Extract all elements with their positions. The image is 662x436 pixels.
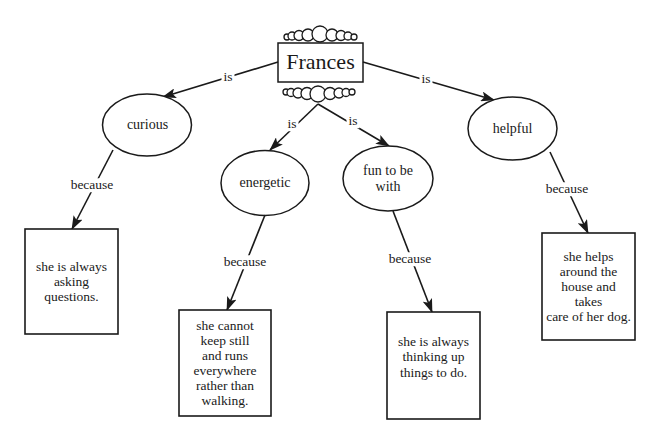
- edge-label-because-energetic: because: [222, 255, 269, 269]
- edge-label-is-helpful: is: [419, 72, 432, 86]
- reason-line: asking: [54, 274, 89, 289]
- edge-label-is-fun: is: [346, 114, 359, 128]
- reason-line: walking.: [202, 393, 249, 408]
- trait-label-fun: fun to be with: [343, 146, 433, 211]
- reason-line: house and takes: [546, 279, 631, 309]
- trait-label-helpful: helpful: [468, 97, 557, 160]
- reason-line: everywhere: [194, 363, 257, 378]
- pearl-decoration-bottom-icon: [283, 86, 355, 102]
- reason-line: she cannot: [196, 318, 253, 333]
- reason-line: she is always: [36, 259, 107, 274]
- edge-label-because-curious: because: [69, 178, 116, 192]
- reason-line: questions.: [44, 289, 98, 304]
- pearl-decoration-top-icon: [284, 26, 357, 42]
- reason-line: she helps: [564, 249, 614, 264]
- reason-text-fun: she is always thinking up things to do.: [387, 312, 480, 402]
- reason-line: things to do.: [400, 365, 467, 380]
- reason-line: she is always: [398, 334, 469, 349]
- edge-label-because-fun: because: [387, 252, 434, 266]
- trait-label-curious: curious: [103, 94, 192, 156]
- reason-text-energetic: she cannot keep still and runs everywher…: [179, 310, 271, 416]
- reason-line: rather than: [196, 378, 254, 393]
- root-node-label: Frances: [278, 43, 363, 82]
- trait-label-energetic: energetic: [221, 150, 309, 215]
- edge-label-is-curious: is: [221, 70, 234, 84]
- reason-line: around the: [560, 264, 617, 279]
- trait-label-fun-line-2: with: [376, 179, 401, 195]
- edge-label-is-energetic: is: [285, 117, 298, 131]
- reason-line: keep still: [200, 333, 249, 348]
- reason-line: thinking up: [403, 349, 465, 364]
- trait-label-fun-line-1: fun to be: [363, 163, 413, 179]
- edge-label-because-helpful: because: [544, 182, 591, 196]
- reason-line: and runs: [202, 348, 248, 363]
- reason-line: care of her dog.: [546, 309, 631, 324]
- reason-text-curious: she is always asking questions.: [25, 229, 118, 334]
- reason-text-helpful: she helps around the house and takes car…: [542, 233, 635, 340]
